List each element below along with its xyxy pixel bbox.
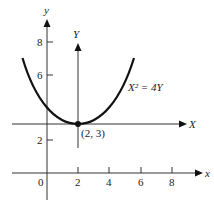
x-tick-8: 8 xyxy=(169,176,175,188)
x-tick-4: 4 xyxy=(106,176,112,188)
y-axis-arrow-icon xyxy=(44,19,51,27)
x-ticks xyxy=(78,167,172,173)
Y-axis-arrow-icon xyxy=(75,43,82,51)
y-ticks xyxy=(47,42,53,140)
y-axis-label: y xyxy=(43,4,49,16)
y-tick-2: 2 xyxy=(37,134,43,146)
Y-axis-label: Y xyxy=(73,28,81,40)
parabola-diagram: y 8 6 2 x 0 2 4 6 8 Y X (2, 3) X² = 4Y xyxy=(0,0,214,205)
origin-label: 0 xyxy=(38,176,44,188)
y-tick-8: 8 xyxy=(37,36,43,48)
x-tick-2: 2 xyxy=(75,176,81,188)
y-tick-6: 6 xyxy=(37,69,43,81)
X-axis-arrow-icon xyxy=(179,121,187,128)
x-axis-arrow-icon xyxy=(195,170,203,177)
x-axis-label: x xyxy=(204,167,210,179)
vertex-label: (2, 3) xyxy=(81,127,105,140)
equation-label: X² = 4Y xyxy=(127,81,164,93)
x-tick-6: 6 xyxy=(138,176,144,188)
X-axis-label: X xyxy=(188,118,197,130)
